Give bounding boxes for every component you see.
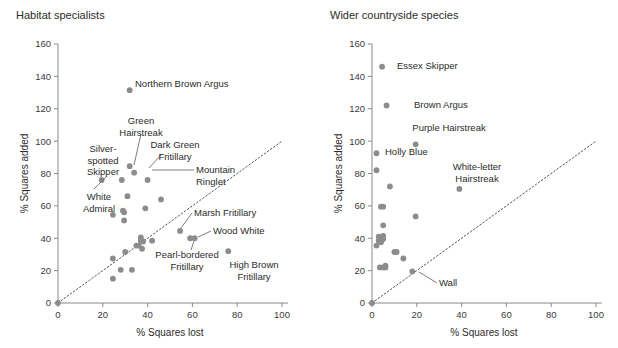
data-point xyxy=(192,235,198,241)
data-point xyxy=(456,186,462,192)
y-tick-label: 40 xyxy=(354,233,365,244)
point-label-line: Fritillary xyxy=(170,261,203,272)
point-label: White-letterHairstreak xyxy=(453,161,502,184)
point-label-line: Essex Skipper xyxy=(397,60,458,71)
data-point xyxy=(129,267,135,273)
y-tick-label: 20 xyxy=(40,265,51,276)
x-axis-title: % Squares lost xyxy=(450,327,517,338)
y-tick-label: 100 xyxy=(35,136,51,147)
y-tick-label: 140 xyxy=(35,71,51,82)
data-point xyxy=(139,246,145,252)
point-label-line: Skipper xyxy=(87,166,119,177)
point-label-line: Wood White xyxy=(213,225,265,236)
data-point xyxy=(225,248,231,254)
data-point xyxy=(380,222,386,228)
x-tick-label: 0 xyxy=(369,309,374,320)
data-point xyxy=(125,193,131,199)
point-label: Purple Hairstreak xyxy=(412,122,486,133)
annotations-left: Northern Brown ArgusGreenHairstreakSilve… xyxy=(83,78,279,282)
x-tick-label: 0 xyxy=(55,309,60,320)
y-tick-label: 60 xyxy=(40,200,51,211)
data-point xyxy=(158,197,164,203)
data-point xyxy=(379,64,385,70)
point-label: Essex Skipper xyxy=(397,60,458,71)
annotation-leader-line xyxy=(134,134,141,165)
y-tick-label: 80 xyxy=(40,168,51,179)
point-label: MountainRinglet xyxy=(196,164,235,187)
point-label-line: Northern Brown Argus xyxy=(135,78,229,89)
data-point xyxy=(119,177,125,183)
data-point xyxy=(140,239,146,245)
point-label: Silver-spottedSkipper xyxy=(87,143,119,177)
data-point xyxy=(383,263,389,269)
point-label-line: Wall xyxy=(439,277,457,288)
y-tick-label: 100 xyxy=(349,136,365,147)
data-point xyxy=(400,256,406,262)
point-label-line: Ringlet xyxy=(196,176,226,187)
x-tick-label: 80 xyxy=(232,309,243,320)
y-tick-label: 0 xyxy=(46,297,51,308)
data-point xyxy=(384,103,390,109)
x-tick-label: 40 xyxy=(142,309,153,320)
point-label-line: Hairstreak xyxy=(119,127,163,138)
y-tick-label: 160 xyxy=(35,38,51,49)
point-label: WhiteAdmiral xyxy=(83,191,115,214)
y-axis-title: % Squares added xyxy=(333,134,344,214)
data-point xyxy=(177,228,183,234)
point-label: Northern Brown Argus xyxy=(135,78,229,89)
y-tick-label: 120 xyxy=(35,103,51,114)
data-point xyxy=(413,213,419,219)
axes-right: 020406080100020406080100120140160% Squar… xyxy=(333,38,604,338)
data-point xyxy=(99,177,105,183)
point-label-line: Green xyxy=(128,115,154,126)
x-tick-label: 60 xyxy=(501,309,512,320)
annotation-leader-line xyxy=(181,213,192,228)
data-point xyxy=(127,87,133,93)
point-label: Holly Blue xyxy=(385,146,428,157)
point-label: GreenHairstreak xyxy=(119,115,163,138)
point-label-line: Fritillary xyxy=(237,271,270,282)
data-point xyxy=(374,167,380,173)
y-tick-label: 0 xyxy=(360,297,365,308)
point-label-line: spotted xyxy=(87,155,118,166)
annotations-right: Essex SkipperBrown ArgusPurple Hairstrea… xyxy=(385,60,501,288)
data-point xyxy=(127,163,133,169)
y-tick-label: 60 xyxy=(354,200,365,211)
data-point xyxy=(121,218,127,224)
data-point xyxy=(118,267,124,273)
scatter-plot-left: 020406080100020406080100120140160% Squar… xyxy=(0,0,309,348)
annotation-leader-line xyxy=(198,231,211,237)
point-label-line: Hairstreak xyxy=(455,173,499,184)
data-point xyxy=(142,205,148,211)
point-label: Brown Argus xyxy=(414,99,468,110)
scatter-plot-right: 020406080100020406080100120140160% Squar… xyxy=(309,0,618,348)
x-tick-label: 60 xyxy=(187,309,198,320)
point-label-line: Brown Argus xyxy=(414,99,468,110)
point-label-line: Admiral xyxy=(83,203,115,214)
data-point xyxy=(149,238,155,244)
point-label-line: Holly Blue xyxy=(385,146,428,157)
data-point xyxy=(387,184,393,190)
point-label-line: Fritillary xyxy=(158,151,191,162)
point-label-line: Pearl-bordered xyxy=(155,249,218,260)
point-label-line: Marsh Fritillary xyxy=(194,207,257,218)
figure-two-panel-scatter: Habitat specialists 02040608010002040608… xyxy=(0,0,618,348)
point-label-line: High Brown xyxy=(229,259,278,270)
x-tick-label: 20 xyxy=(98,309,109,320)
y-axis-title: % Squares added xyxy=(19,134,30,214)
point-label-line: Silver- xyxy=(90,143,117,154)
y-tick-label: 160 xyxy=(349,38,365,49)
data-point xyxy=(369,300,375,306)
x-tick-label: 100 xyxy=(274,309,290,320)
data-point xyxy=(380,204,386,210)
data-point xyxy=(121,209,127,215)
point-label: Dark GreenFritillary xyxy=(150,139,199,162)
point-label-line: Dark Green xyxy=(150,139,199,150)
data-point xyxy=(110,256,116,262)
point-label-line: White xyxy=(87,191,111,202)
panel-habitat-specialists: Habitat specialists 02040608010002040608… xyxy=(0,0,309,348)
point-label: High BrownFritillary xyxy=(229,259,278,282)
point-label-line: Purple Hairstreak xyxy=(412,122,486,133)
annotation-leader-line xyxy=(419,272,437,283)
x-tick-label: 80 xyxy=(546,309,557,320)
